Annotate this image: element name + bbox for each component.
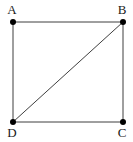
geometry-diagram-square-with-diagonal: ABCD (0, 0, 133, 142)
vertex-dot-B (120, 19, 126, 25)
labels-layer: ABCD (7, 2, 126, 140)
vertex-dot-A (10, 19, 16, 25)
diagonal-DB (13, 22, 123, 122)
vertex-label-C: C (118, 125, 127, 140)
edges-layer (13, 22, 123, 122)
vertex-label-A: A (7, 2, 17, 17)
vertex-label-D: D (7, 125, 16, 140)
vertex-label-B: B (118, 2, 127, 17)
